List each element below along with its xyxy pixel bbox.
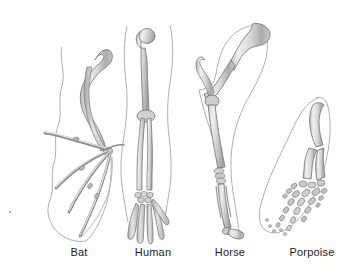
bat-body-outline <box>48 47 86 241</box>
specimen-label-human: Human <box>135 246 171 258</box>
horse-radius <box>208 105 225 168</box>
horse-carpals <box>214 168 226 184</box>
human-radius <box>147 118 152 190</box>
image-speck-artifact <box>9 211 11 213</box>
human-arm-outline-right <box>164 25 173 222</box>
bat-limb-illustration <box>45 47 124 241</box>
specimen-label-bat: Bat <box>70 246 87 258</box>
human-digits <box>128 199 169 244</box>
human-elbow-joint <box>137 110 155 122</box>
figure-illustration <box>0 0 362 279</box>
human-limb-illustration <box>121 25 173 244</box>
specimen-label-horse: Horse <box>215 246 245 258</box>
horse-scapula <box>228 23 270 70</box>
human-humeral-head <box>139 29 155 44</box>
human-digit-3 <box>147 204 153 244</box>
porpoise-humerus <box>310 103 324 147</box>
porpoise-limb-illustration <box>259 97 330 235</box>
bat-digit-1 <box>107 145 124 149</box>
porpoise-carpals <box>299 180 325 188</box>
bat-joint-d4 <box>87 182 94 189</box>
horse-limb-illustration <box>196 23 270 239</box>
bat-membrane-trailing-edge <box>86 158 111 241</box>
human-ulna <box>137 118 145 190</box>
horse-hoof-phalanx <box>228 229 244 239</box>
comparative-anatomy-figure: Bat Human Horse Porpoise <box>0 0 362 279</box>
porpoise-ulna <box>316 148 325 180</box>
human-carpals <box>135 191 153 202</box>
human-arm-outline-left <box>121 26 128 222</box>
specimen-label-porpoise: Porpoise <box>289 246 334 258</box>
bat-radius-ulna <box>84 67 108 152</box>
porpoise-radius <box>303 148 317 179</box>
